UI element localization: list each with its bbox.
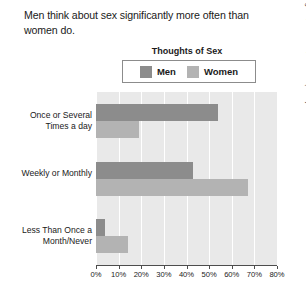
bar-women-0 <box>96 121 139 138</box>
x-tick-mark <box>209 266 210 269</box>
x-tick-mark <box>187 266 188 269</box>
legend-label-men: Men <box>157 66 176 77</box>
x-axis-ticks: 0%10%20%30%40%50%60%70%80% <box>96 266 277 282</box>
x-tick-label: 60% <box>224 270 239 279</box>
bar-men-2 <box>96 219 105 236</box>
x-tick-label: 10% <box>111 270 126 279</box>
figure-caption: Men think about sex significantly more o… <box>24 8 274 38</box>
x-tick-mark <box>96 266 97 269</box>
bar-men-1 <box>96 162 193 179</box>
x-tick-mark <box>254 266 255 269</box>
legend-swatch-women <box>187 66 199 78</box>
x-tick-label: 20% <box>134 270 149 279</box>
legend-entry-men: Men <box>140 66 176 78</box>
x-tick-label: 70% <box>247 270 262 279</box>
source-credit: Adapted from Michael, Gagnon, Laumann, &… <box>305 0 306 104</box>
figure-container: Men think about sex significantly more o… <box>0 0 306 284</box>
x-tick-mark <box>164 266 165 269</box>
x-tick-label: 40% <box>179 270 194 279</box>
bars-layer <box>96 92 277 265</box>
x-tick-label: 0% <box>91 270 102 279</box>
x-tick-mark <box>141 266 142 269</box>
x-tick-label: 50% <box>202 270 217 279</box>
legend-label-women: Women <box>204 66 238 77</box>
category-label: Less Than Once a Month/Never <box>14 225 92 247</box>
chart-legend: Men Women <box>122 60 256 83</box>
legend-title: Thoughts of Sex <box>96 46 278 56</box>
gridline <box>277 92 278 265</box>
x-tick-label: 80% <box>269 270 284 279</box>
category-label: Once or Several Times a day <box>14 110 92 132</box>
legend-entry-women: Women <box>187 66 238 78</box>
category-label: Weekly or Monthly <box>14 168 92 179</box>
legend-swatch-men <box>140 66 152 78</box>
bar-men-0 <box>96 104 218 121</box>
category-axis-labels: Once or Several Times a dayWeekly or Mon… <box>12 92 92 265</box>
bar-women-1 <box>96 179 248 196</box>
x-tick-label: 30% <box>156 270 171 279</box>
x-tick-mark <box>232 266 233 269</box>
bar-women-2 <box>96 236 128 253</box>
x-tick-mark <box>277 266 278 269</box>
x-tick-mark <box>119 266 120 269</box>
plot-area <box>96 92 277 265</box>
